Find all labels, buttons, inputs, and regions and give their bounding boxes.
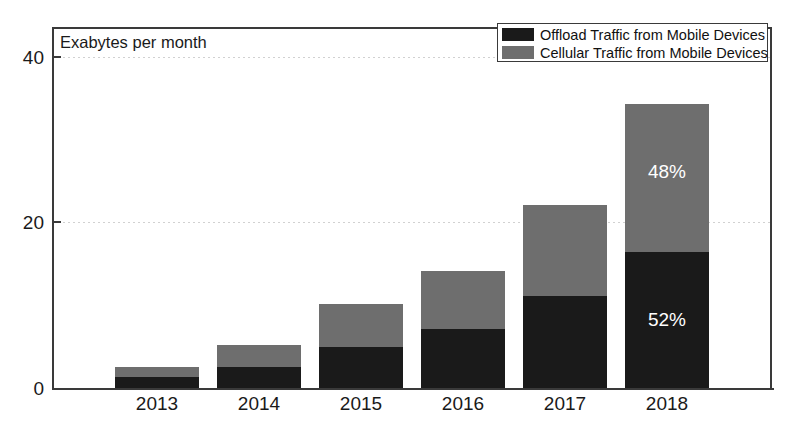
x-tick-label-2017: 2017 bbox=[523, 394, 607, 413]
bar-segment-cellular-2014 bbox=[217, 345, 301, 367]
bar-segment-offload-2018: 52% bbox=[625, 252, 709, 388]
legend-swatch-cellular-icon bbox=[502, 46, 534, 59]
legend-item-cellular: Cellular Traffic from Mobile Devices bbox=[502, 44, 764, 61]
y-tick-mark-40 bbox=[52, 56, 61, 58]
bar-segment-offload-2016 bbox=[421, 329, 505, 388]
x-axis-line bbox=[52, 388, 774, 390]
x-tick-label-2018: 2018 bbox=[625, 394, 709, 413]
bar-segment-cellular-2017 bbox=[523, 205, 607, 296]
y-tick-label-40: 40 bbox=[8, 48, 44, 67]
y-axis-line bbox=[52, 27, 54, 390]
y-tick-label-0: 0 bbox=[8, 379, 44, 398]
bar-segment-offload-2014 bbox=[217, 367, 301, 388]
stacked-bar-chart: 40 20 0 Exabytes per month 48% 52% 201 bbox=[0, 0, 801, 433]
bar-segment-offload-2015 bbox=[319, 347, 403, 388]
x-tick-label-2016: 2016 bbox=[421, 394, 505, 413]
bar-2018: 48% 52% bbox=[625, 104, 709, 388]
bar-segment-offload-2017 bbox=[523, 296, 607, 388]
x-tick-label-2013: 2013 bbox=[115, 394, 199, 413]
bar-2013 bbox=[115, 367, 199, 389]
bar-segment-offload-2013 bbox=[115, 377, 199, 388]
y-tick-mark-20 bbox=[52, 221, 61, 223]
bar-label-cellular-share-2018: 48% bbox=[625, 161, 709, 183]
legend-swatch-offload-icon bbox=[502, 28, 534, 41]
bar-2016 bbox=[421, 271, 505, 388]
legend-label-offload: Offload Traffic from Mobile Devices bbox=[540, 27, 765, 43]
bar-2014 bbox=[217, 345, 301, 388]
bar-segment-cellular-2016 bbox=[421, 271, 505, 329]
chart-legend: Offload Traffic from Mobile Devices Cell… bbox=[497, 23, 768, 62]
x-tick-label-2014: 2014 bbox=[217, 394, 301, 413]
y-axis-label: Exabytes per month bbox=[60, 33, 207, 52]
legend-item-offload: Offload Traffic from Mobile Devices bbox=[502, 26, 764, 43]
legend-label-cellular: Cellular Traffic from Mobile Devices bbox=[540, 45, 768, 61]
bar-segment-cellular-2018: 48% bbox=[625, 104, 709, 252]
bar-segment-cellular-2015 bbox=[319, 304, 403, 347]
y-tick-label-20: 20 bbox=[8, 213, 44, 232]
bar-2015 bbox=[319, 304, 403, 389]
bar-label-offload-share-2018: 52% bbox=[625, 309, 709, 331]
bar-2017 bbox=[523, 205, 607, 388]
bar-segment-cellular-2013 bbox=[115, 367, 199, 378]
x-tick-label-2015: 2015 bbox=[319, 394, 403, 413]
